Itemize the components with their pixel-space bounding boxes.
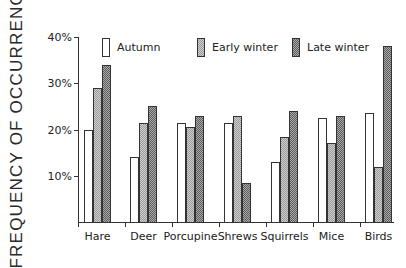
bar-porcupine-late-winter	[195, 116, 204, 223]
bar-shrews-autumn	[224, 123, 233, 223]
x-tick	[125, 222, 126, 227]
bar-birds-late-winter	[383, 46, 392, 223]
y-tick-label: 30%	[48, 77, 72, 90]
bar-mice-autumn	[318, 118, 327, 223]
bar-mice-early-winter	[327, 143, 336, 223]
bar-deer-autumn	[130, 157, 139, 223]
x-tick	[78, 222, 79, 227]
bar-squirrels-late-winter	[289, 111, 298, 223]
x-tick-label: Mice	[319, 230, 344, 243]
legend-swatch-late-winter	[292, 38, 300, 57]
bar-birds-autumn	[365, 113, 374, 223]
legend-item-autumn: Autumn	[102, 37, 160, 57]
legend-swatch-autumn	[102, 38, 110, 57]
bar-squirrels-early-winter	[280, 137, 289, 223]
y-tick	[74, 176, 79, 177]
bar-birds-early-winter	[374, 167, 383, 223]
bar-deer-late-winter	[148, 106, 157, 223]
x-tick-label: Squirrels	[260, 230, 308, 243]
bar-hare-late-winter	[102, 65, 111, 223]
y-tick-label: 20%	[48, 124, 72, 137]
x-tick-label: Deer	[130, 230, 157, 243]
legend-item-early-winter: Early winter	[197, 37, 278, 57]
bar-squirrels-autumn	[271, 162, 280, 223]
y-tick-label: 40%	[48, 31, 72, 44]
y-tick	[74, 130, 79, 131]
bar-shrews-late-winter	[242, 183, 251, 223]
x-tick-label: Birds	[365, 230, 393, 243]
x-tick	[313, 222, 314, 227]
x-tick-label: Hare	[84, 230, 110, 243]
x-tick	[219, 222, 220, 227]
bar-mice-late-winter	[336, 116, 345, 223]
legend-label-autumn: Autumn	[117, 41, 160, 54]
y-tick-label: 10%	[48, 170, 72, 183]
bar-hare-autumn	[84, 130, 93, 223]
bar-porcupine-autumn	[177, 123, 186, 223]
x-tick-label: Shrews	[218, 230, 258, 243]
y-axis-label: FREQUENCY OF OCCURRENCE	[7, 0, 27, 268]
legend-label-late-winter: Late winter	[307, 41, 369, 54]
bar-shrews-early-winter	[233, 116, 242, 223]
x-tick-label: Porcupine	[163, 230, 217, 243]
bar-deer-early-winter	[139, 123, 148, 223]
legend-item-late-winter: Late winter	[292, 37, 369, 57]
bar-porcupine-early-winter	[186, 127, 195, 223]
bar-hare-early-winter	[93, 88, 102, 223]
legend-label-early-winter: Early winter	[212, 41, 278, 54]
x-tick	[266, 222, 267, 227]
y-tick	[74, 83, 79, 84]
x-tick	[172, 222, 173, 227]
y-tick	[74, 37, 79, 38]
legend-swatch-early-winter	[197, 38, 205, 57]
x-tick	[360, 222, 361, 227]
